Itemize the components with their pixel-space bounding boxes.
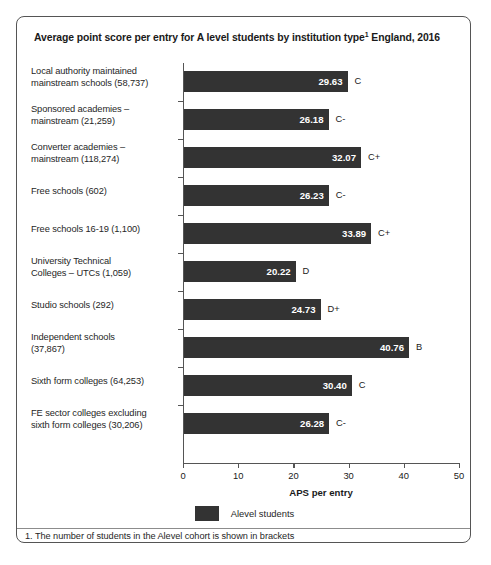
category-label-line1: Sixth form colleges (64,253) bbox=[31, 376, 181, 388]
category-label: Free schools (602) bbox=[31, 186, 181, 198]
grade-annotation: C bbox=[355, 71, 362, 92]
x-axis-tick bbox=[459, 463, 460, 468]
bar-value-label: 32.07 bbox=[332, 147, 356, 168]
category-label: Converter academies –mainstream (118,274… bbox=[31, 142, 181, 165]
category-label: Independent schools(37,867) bbox=[31, 332, 181, 355]
grade-annotation: B bbox=[416, 337, 422, 358]
category-label: Local authority maintainedmainstream sch… bbox=[31, 66, 181, 89]
bar[interactable]: 32.07 bbox=[184, 147, 361, 168]
chart-row: Sixth form colleges (64,253)30.40C bbox=[17, 367, 472, 405]
category-label-line1: Studio schools (292) bbox=[31, 300, 181, 312]
category-label: Sponsored academies –mainstream (21,259) bbox=[31, 104, 181, 127]
chart-title-tail: England, 2016 bbox=[369, 32, 440, 43]
x-axis-tick bbox=[293, 463, 294, 468]
chart-row: Independent schools(37,867)40.76B bbox=[17, 329, 472, 367]
x-axis-tick bbox=[183, 463, 184, 468]
grade-annotation: C- bbox=[336, 109, 346, 130]
grade-annotation: C bbox=[359, 375, 366, 396]
category-label: FE sector colleges excludingsixth form c… bbox=[31, 408, 181, 431]
category-label-line2: sixth form colleges (30,206) bbox=[31, 420, 181, 432]
grade-annotation: D+ bbox=[328, 299, 340, 320]
bar-value-label: 30.40 bbox=[323, 375, 347, 396]
x-axis-title: APS per entry bbox=[183, 487, 459, 498]
bar-value-label: 26.28 bbox=[300, 413, 324, 434]
category-label-line2: (37,867) bbox=[31, 344, 181, 356]
category-label-line1: FE sector colleges excluding bbox=[31, 408, 181, 420]
category-label-line1: University Technical bbox=[31, 256, 181, 268]
bar[interactable]: 26.23 bbox=[184, 185, 329, 206]
grade-annotation: C+ bbox=[378, 223, 390, 244]
bar[interactable]: 30.40 bbox=[184, 375, 352, 396]
category-label-line2: mainstream schools (58,737) bbox=[31, 78, 181, 90]
chart-title-main: Average point score per entry for A leve… bbox=[34, 32, 365, 43]
page-title: Average point score per entry for A leve… bbox=[34, 31, 454, 44]
x-axis-tick bbox=[404, 463, 405, 468]
grade-annotation: C- bbox=[336, 185, 346, 206]
grade-annotation: D bbox=[303, 261, 310, 282]
grade-annotation: C- bbox=[336, 413, 346, 434]
legend-swatch-alevel-students bbox=[195, 506, 219, 521]
grade-annotation: C+ bbox=[368, 147, 380, 168]
category-label-line1: Free schools 16-19 (1,100) bbox=[31, 224, 181, 236]
category-label-line1: Local authority maintained bbox=[31, 66, 181, 78]
bar[interactable]: 33.89 bbox=[184, 223, 371, 244]
category-label-line1: Sponsored academies – bbox=[31, 104, 181, 116]
bar-value-label: 20.22 bbox=[267, 261, 291, 282]
category-label: Free schools 16-19 (1,100) bbox=[31, 224, 181, 236]
category-label-line1: Converter academies – bbox=[31, 142, 181, 154]
bar-value-label: 40.76 bbox=[380, 337, 404, 358]
category-label: Studio schools (292) bbox=[31, 300, 181, 312]
x-axis-tick-label: 10 bbox=[218, 470, 258, 481]
bar[interactable]: 20.22 bbox=[184, 261, 296, 282]
x-axis-tick-label: 0 bbox=[163, 470, 203, 481]
category-label-line1: Free schools (602) bbox=[31, 186, 181, 198]
bar[interactable]: 24.73 bbox=[184, 299, 321, 320]
category-label-line2: mainstream (118,274) bbox=[31, 154, 181, 166]
bar-value-label: 33.89 bbox=[342, 223, 366, 244]
x-axis-tick bbox=[238, 463, 239, 468]
x-axis-tick-label: 40 bbox=[384, 470, 424, 481]
x-axis-line bbox=[183, 463, 459, 464]
category-label: University TechnicalColleges – UTCs (1,0… bbox=[31, 256, 181, 279]
footnote-divider bbox=[17, 528, 470, 529]
bar-value-label: 26.23 bbox=[300, 185, 324, 206]
bar[interactable]: 26.28 bbox=[184, 413, 329, 434]
x-axis-tick-label: 50 bbox=[439, 470, 479, 481]
bar-value-label: 26.18 bbox=[299, 109, 323, 130]
chart-row: Local authority maintainedmainstream sch… bbox=[17, 63, 472, 101]
bar[interactable]: 26.18 bbox=[184, 109, 329, 130]
chart-panel: Average point score per entry for A leve… bbox=[16, 16, 471, 543]
category-label-line2: Colleges – UTCs (1,059) bbox=[31, 268, 181, 280]
category-label-line2: mainstream (21,259) bbox=[31, 116, 181, 128]
chart-row: FE sector colleges excludingsixth form c… bbox=[17, 405, 472, 443]
chart-row: Studio schools (292)24.73D+ bbox=[17, 291, 472, 329]
chart-row: Sponsored academies –mainstream (21,259)… bbox=[17, 101, 472, 139]
legend-label-alevel-students: Alevel students bbox=[231, 508, 295, 519]
chart-row: Free schools (602)26.23C- bbox=[17, 177, 472, 215]
source-line bbox=[60, 556, 440, 565]
chart-row: Free schools 16-19 (1,100)33.89C+ bbox=[17, 215, 472, 253]
bar[interactable]: 40.76 bbox=[184, 337, 409, 358]
bar-value-label: 24.73 bbox=[291, 299, 315, 320]
chart-row: University TechnicalColleges – UTCs (1,0… bbox=[17, 253, 472, 291]
category-label: Sixth form colleges (64,253) bbox=[31, 376, 181, 388]
x-axis-tick bbox=[349, 463, 350, 468]
category-label-line1: Independent schools bbox=[31, 332, 181, 344]
x-axis-tick-label: 20 bbox=[273, 470, 313, 481]
y-axis-line bbox=[183, 63, 184, 463]
footnote: 1. The number of students in the Alevel … bbox=[25, 531, 455, 541]
bar[interactable]: 29.63 bbox=[184, 71, 348, 92]
bar-value-label: 29.63 bbox=[319, 71, 343, 92]
chart-row: Converter academies –mainstream (118,274… bbox=[17, 139, 472, 177]
legend: Alevel students bbox=[17, 506, 472, 521]
plot-area: Local authority maintainedmainstream sch… bbox=[17, 63, 472, 463]
x-axis-tick-label: 30 bbox=[329, 470, 369, 481]
